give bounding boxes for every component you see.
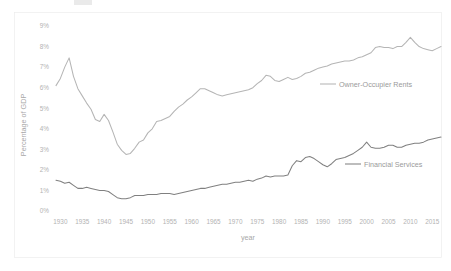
y-tick-label: 1% [40,187,50,194]
y-tick-label: 7% [40,63,50,70]
x-tick-label: 1940 [97,218,112,225]
x-tick-label: 1955 [163,218,178,225]
legend-label-owner-occupier-rents: Owner-Occupier Rents [339,80,413,89]
legend-label-financial-services: Financial Services [364,160,423,169]
x-tick-label: 1960 [185,218,200,225]
x-tick-label: 1975 [250,218,265,225]
y-tick-label: 9% [40,22,50,29]
x-tick-label: 1935 [75,218,90,225]
x-tick-label: 1950 [141,218,156,225]
x-tick-label: 1980 [272,218,287,225]
y-tick-label: 4% [40,125,50,132]
y-tick-label: 5% [40,105,50,112]
x-tick-label: 1990 [316,218,331,225]
y-tick-label: 6% [40,84,50,91]
y-tick-label: 3% [40,146,50,153]
x-tick-label: 1995 [338,218,353,225]
y-axis-title: Percentage of GDP [19,94,28,157]
y-tick-label: 8% [40,43,50,50]
x-tick-label: 1970 [228,218,243,225]
line-chart: 0%1%2%3%4%5%6%7%8%9% 1930193519401945195… [0,0,451,271]
x-tick-label: 1930 [53,218,68,225]
x-tick-label: 1965 [206,218,221,225]
y-tick-label: 0% [40,207,50,214]
x-tick-label: 1985 [294,218,309,225]
x-tick-label: 1945 [119,218,134,225]
x-axis-title: year [241,233,256,242]
y-tick-label: 2% [40,166,50,173]
x-tick-label: 2015 [425,218,440,225]
x-tick-label: 2000 [360,218,375,225]
x-tick-label: 2010 [403,218,418,225]
x-tick-label: 2005 [381,218,396,225]
chart-container: 0%1%2%3%4%5%6%7%8%9% 1930193519401945195… [0,0,451,271]
